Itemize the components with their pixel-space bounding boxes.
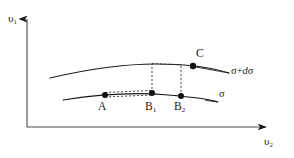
point-B2-label: B2 [174, 101, 185, 114]
sigma-plus-dsigma-curve [50, 64, 229, 78]
y-axis-label: υ1 [8, 13, 17, 26]
sigma-plus-dsigma-tail: σ [248, 65, 254, 76]
sigma-curve-label-text: σ [219, 88, 225, 99]
point-B2-marker [178, 93, 184, 99]
sigma-plus-dsigma-head: σ+ [231, 65, 243, 76]
curve-group [50, 64, 229, 102]
leader-sigma-dsigma [196, 67, 229, 73]
point-B2-label-subscript: 2 [182, 106, 186, 114]
sigma-plus-dsigma-curve-label: σ+dσ [231, 66, 254, 77]
dashed-connector-group [105, 64, 181, 98]
point-B2-label-text: B [174, 100, 182, 112]
sigma-curve-label: σ [219, 89, 225, 100]
x-axis-label-subscript: 2 [269, 141, 272, 148]
point-B1-label-subscript: 1 [153, 106, 157, 114]
point-C-marker [190, 63, 196, 69]
diagram-svg [0, 0, 294, 158]
point-B1-label-text: B [145, 100, 153, 112]
x-axis-label: υ2 [264, 136, 273, 149]
point-A-label-text: A [98, 100, 106, 112]
figure-canvas: υ1 υ2 A B1 B2 C σ σ+dσ [0, 0, 294, 158]
point-C-label-text: C [196, 47, 204, 59]
point-B1-label: B1 [145, 101, 156, 114]
sigma-curve [63, 94, 218, 102]
point-marker-group [102, 63, 196, 99]
point-A-label: A [98, 101, 106, 113]
y-axis-label-subscript: 1 [13, 18, 16, 25]
point-C-label: C [196, 48, 204, 60]
loop-lower-A-B1 [105, 95, 152, 97]
point-B1-marker [149, 90, 155, 96]
loop-upper-A-B1 [105, 91, 152, 93]
point-A-marker [102, 92, 108, 98]
